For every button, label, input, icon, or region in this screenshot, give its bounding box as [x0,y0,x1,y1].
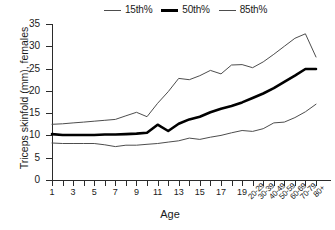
plot-area [52,24,330,180]
x-tick-mark [168,181,169,186]
x-tick-mark [105,181,106,186]
legend-label: 50th% [182,5,209,15]
x-tick-mark [63,181,64,186]
legend-item-50th: 50th% [161,5,209,15]
x-tick-mark [253,181,254,186]
y-tick-label: 35 [6,19,40,29]
y-tick-label: 5 [6,153,40,163]
y-tick-label: 20 [6,86,40,96]
x-tick-mark [147,181,148,186]
x-tick-mark [200,181,201,186]
x-tick-mark [73,181,74,186]
x-tick-mark [94,181,95,186]
x-tick-mark [179,181,180,186]
x-tick-mark [136,181,137,186]
x-axis-label: Age [120,208,220,220]
x-tick-mark [242,181,243,186]
y-tick-label: 0 [6,175,40,185]
series-line-85th [52,34,316,125]
x-tick-label: 3 [63,188,83,197]
x-tick-mark [115,181,116,186]
legend-label: 85th% [240,5,267,15]
x-tick-label: 11 [148,188,168,197]
x-tick-mark [158,181,159,186]
series-line-15th [52,104,316,146]
legend-item-85th: 85th% [219,5,267,15]
x-tick-mark [232,181,233,186]
y-tick-label: 30 [6,41,40,51]
triceps-skinfold-chart: 15th%50th%85th% Triceps skinfold (mm), f… [0,0,335,230]
legend-label: 15th% [125,5,152,15]
x-tick-mark [295,181,296,186]
x-tick-label: 7 [105,188,125,197]
y-tick-label: 25 [6,64,40,74]
x-tick-mark [210,181,211,186]
y-tick-label: 15 [6,108,40,118]
x-tick-label: 9 [126,188,146,197]
x-tick-label: 13 [169,188,189,197]
chart-legend: 15th%50th%85th% [104,2,332,18]
x-tick-mark [221,181,222,186]
legend-swatch-icon [104,10,121,11]
x-tick-mark [84,181,85,186]
y-tick-label: 10 [6,130,40,140]
x-tick-mark [52,181,53,186]
x-tick-mark [126,181,127,186]
legend-swatch-icon [161,9,178,12]
x-tick-label: 1 [42,188,62,197]
x-tick-label: 5 [84,188,104,197]
x-tick-label: 17 [211,188,231,197]
x-tick-label: 15 [190,188,210,197]
legend-item-15th: 15th% [104,5,152,15]
x-tick-mark [189,181,190,186]
x-tick-mark [274,181,275,186]
legend-swatch-icon [219,10,236,11]
